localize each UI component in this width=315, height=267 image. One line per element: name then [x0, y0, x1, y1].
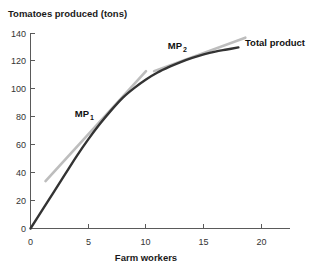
x-tick-label-15: 15	[198, 237, 208, 247]
y-axis-title: Tomatoes produced (tons)	[8, 8, 127, 19]
mp1-label-subscript: 1	[90, 114, 94, 121]
y-tick-label-100: 100	[11, 84, 26, 94]
y-tick-label-0: 0	[21, 224, 26, 234]
y-axis-ticks	[31, 34, 36, 229]
x-tick-label-0: 0	[28, 237, 33, 247]
x-axis-title: Farm workers	[115, 252, 177, 263]
mp2-label-text: MP	[168, 40, 183, 51]
annotation-mp1: MP 1	[75, 108, 94, 121]
mp1-tangent-line	[46, 71, 146, 181]
mp2-label-subscript: 2	[183, 46, 187, 53]
chart-canvas: Tomatoes produced (tons) 0 20 40 60 80 1…	[0, 0, 315, 267]
x-tick-label-5: 5	[86, 237, 91, 247]
x-tick-label-10: 10	[140, 237, 150, 247]
total-product-chart: Tomatoes produced (tons) 0 20 40 60 80 1…	[0, 0, 315, 267]
y-tick-label-60: 60	[16, 140, 26, 150]
total-product-curve	[31, 47, 239, 228]
y-tick-label-80: 80	[16, 112, 26, 122]
y-tick-label-140: 140	[11, 29, 26, 39]
y-tick-label-20: 20	[16, 196, 26, 206]
mp1-label-text: MP	[75, 108, 90, 119]
annotation-mp2: MP 2	[168, 40, 187, 53]
x-tick-label-20: 20	[256, 237, 266, 247]
total-product-label: Total product	[245, 37, 306, 48]
y-tick-label-40: 40	[16, 168, 26, 178]
y-tick-label-120: 120	[11, 56, 26, 66]
x-axis-ticks	[31, 224, 262, 229]
